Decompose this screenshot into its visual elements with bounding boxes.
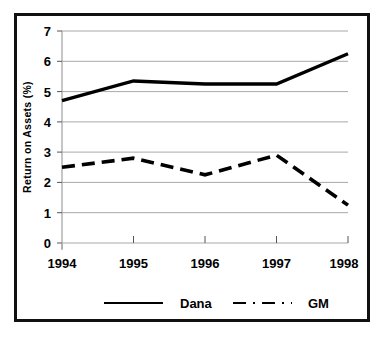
- y-tick-label-7: 7: [44, 24, 51, 39]
- y-tick-label-0: 0: [44, 236, 51, 251]
- y-tick-label-4: 4: [44, 115, 52, 130]
- y-tick-label-3: 3: [44, 145, 51, 160]
- chart-legend: Dana GM: [104, 296, 329, 311]
- x-tick-label-1998: 1998: [330, 256, 359, 271]
- line-chart: 7 6 5 4 3 2 1 0 Return on Assets (%) 199…: [0, 0, 385, 337]
- legend-label-dana: Dana: [180, 296, 213, 311]
- y-tick-label-6: 6: [44, 54, 51, 69]
- x-tick-label-1997: 1997: [262, 256, 291, 271]
- legend-label-gm: GM: [308, 296, 329, 311]
- series-line-dana: [62, 54, 348, 101]
- x-tick-label-1996: 1996: [191, 256, 220, 271]
- y-axis: [57, 31, 62, 249]
- x-tick-label-1994: 1994: [48, 256, 78, 271]
- y-tick-label-5: 5: [44, 85, 51, 100]
- x-tick-label-1995: 1995: [119, 256, 148, 271]
- x-tick-labels: 1994 1995 1996 1997 1998: [48, 256, 359, 271]
- y-tick-label-1: 1: [44, 206, 51, 221]
- y-tick-labels: 7 6 5 4 3 2 1 0: [44, 24, 52, 251]
- y-axis-title: Return on Assets (%): [21, 81, 33, 193]
- chart-figure: 7 6 5 4 3 2 1 0 Return on Assets (%) 199…: [0, 0, 385, 337]
- gridlines: [62, 31, 348, 243]
- y-tick-label-2: 2: [44, 175, 51, 190]
- series-line-gm: [62, 155, 348, 205]
